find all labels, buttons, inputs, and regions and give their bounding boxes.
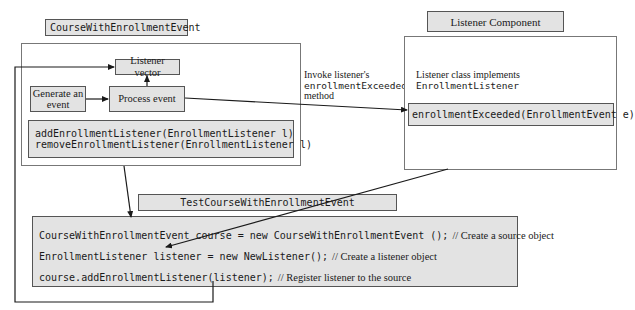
code-line-create-source: CourseWithEnrollmentEvent course = new C… [39,225,517,246]
source-component-title: CourseWithEnrollmentEvent [45,19,188,36]
listener-vector-node: Listener vector [115,59,180,75]
invoke-line1: Invoke listener's [304,70,404,80]
test-code-box: CourseWithEnrollmentEvent course = new C… [32,216,518,287]
code-line-2-comment: // Create a listener object [332,251,437,262]
listener-description-line2: EnrollmentListener [416,80,606,92]
test-component-title-text: TestCourseWithEnrollmentEvent [180,197,355,208]
listener-description-line1: Listener class implements [416,70,606,80]
listener-method-box: enrollmentExceeded(EnrollmentEvent e) [408,103,614,126]
generate-event-node: Generate an event [30,86,86,112]
enrollment-exceeded-method: enrollmentExceeded(EnrollmentEvent e) [412,109,635,120]
test-component-title: TestCourseWithEnrollmentEvent [138,194,397,211]
process-event-node: Process event [109,86,185,112]
listener-component-title: Listener Component [427,11,564,32]
code-line-register-listener: course.addEnrollmentListener(listener); … [39,267,517,288]
listener-component-title-text: Listener Component [450,16,540,28]
generate-event-label-line1: Generate an [33,88,83,99]
method-remove-listener: removeEnrollmentListener(EnrollmentListe… [35,139,293,150]
invoke-listener-annotation: Invoke listener's enrollmentExceeded met… [304,70,404,101]
code-line-create-listener: EnrollmentListener listener = new NewLis… [39,246,517,267]
code-line-1-code: CourseWithEnrollmentEvent course = new C… [39,230,448,241]
code-line-3-comment: // Register listener to the source [278,272,411,283]
invoke-line3: method [304,91,404,101]
method-add-listener: addEnrollmentListener(EnrollmentListener… [35,128,293,139]
listener-description: Listener class implements EnrollmentList… [416,70,606,92]
generate-event-label-line2: event [47,99,70,110]
source-methods-box: addEnrollmentListener(EnrollmentListener… [28,120,294,158]
process-event-label: Process event [118,93,175,105]
source-component-title-text: CourseWithEnrollmentEvent [50,22,201,33]
listener-vector-label: Listener vector [116,55,179,79]
code-line-3-code: course.addEnrollmentListener(listener); [39,272,274,283]
arrow-source-to-test [124,166,131,217]
code-line-2-code: EnrollmentListener listener = new NewLis… [39,251,328,262]
code-line-1-comment: // Create a source object [452,230,553,241]
